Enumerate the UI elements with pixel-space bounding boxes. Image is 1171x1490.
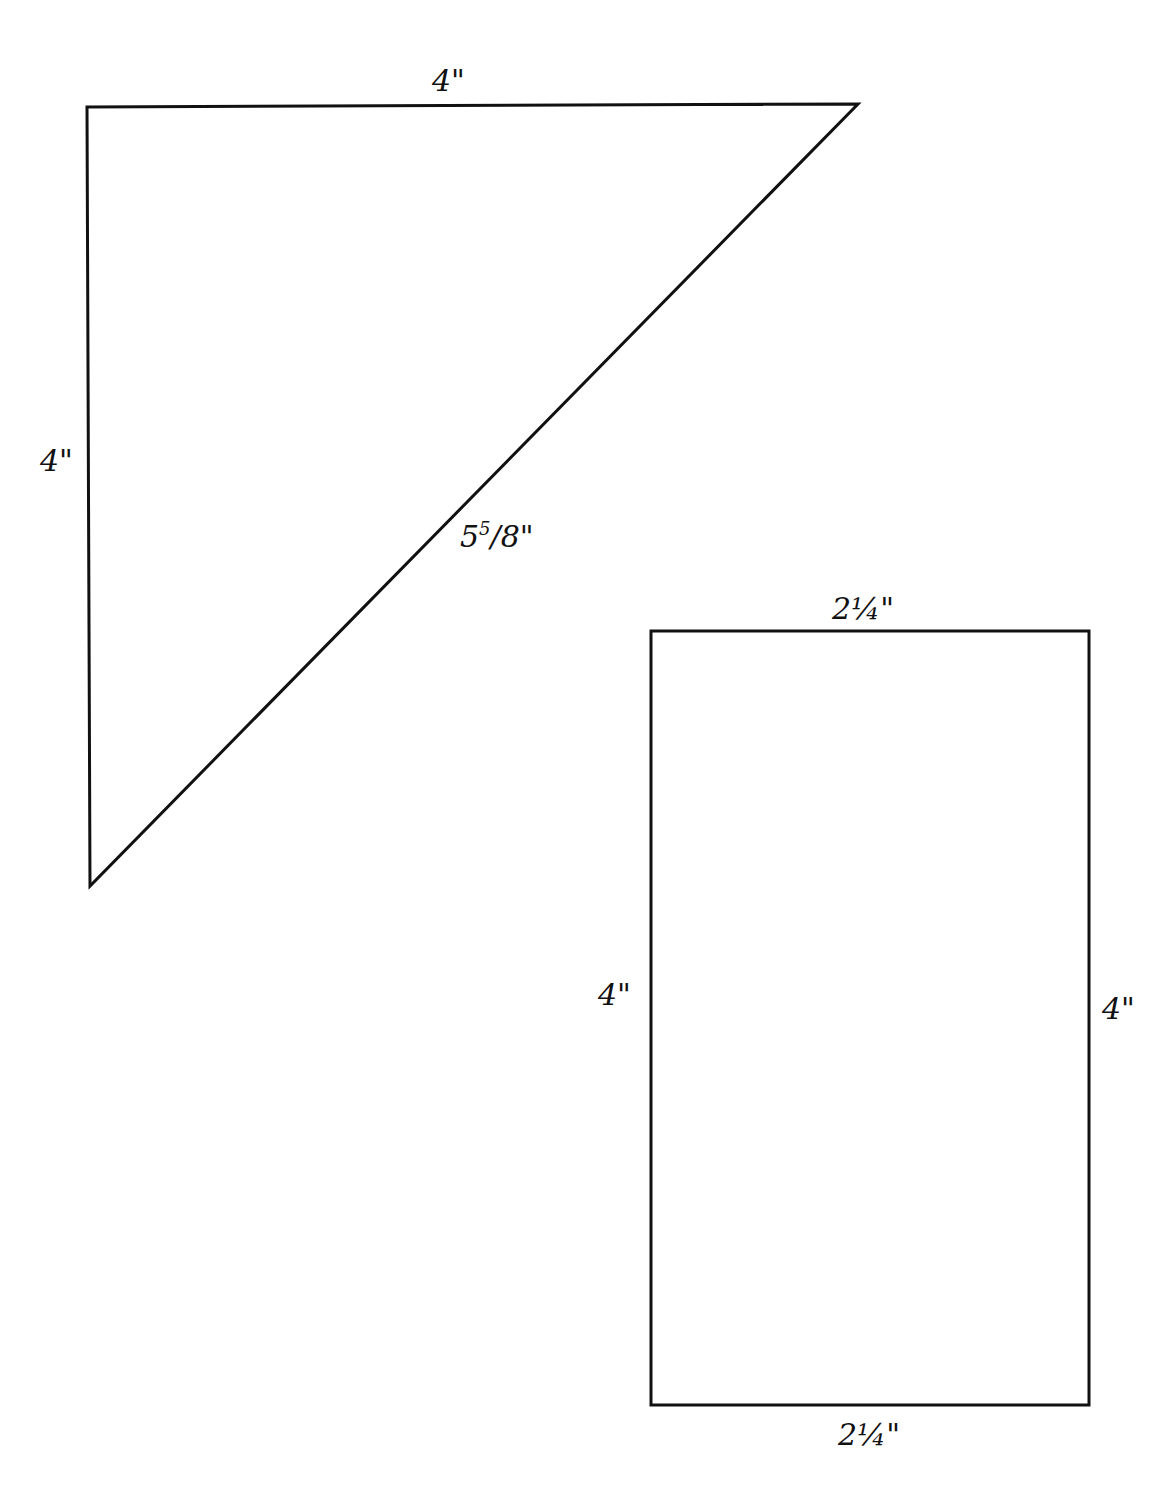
rectangle-right-label: 4" — [1102, 994, 1135, 1024]
diagram-canvas — [0, 0, 1171, 1490]
triangle-shape — [87, 104, 858, 886]
hypotenuse-frac-num: 5 — [479, 518, 490, 539]
rectangle-shape — [651, 631, 1089, 1405]
hypotenuse-frac-den: /8" — [491, 519, 534, 554]
rectangle-top-label: 2¼" — [832, 594, 894, 624]
hypotenuse-whole: 5 — [460, 519, 479, 554]
triangle-top-label: 4" — [432, 66, 465, 96]
rectangle-left-label: 4" — [598, 980, 631, 1010]
triangle-left-label: 4" — [40, 446, 73, 476]
rectangle-bottom-label: 2¼" — [838, 1420, 900, 1450]
triangle-hypotenuse-label: 55/8" — [460, 520, 534, 552]
